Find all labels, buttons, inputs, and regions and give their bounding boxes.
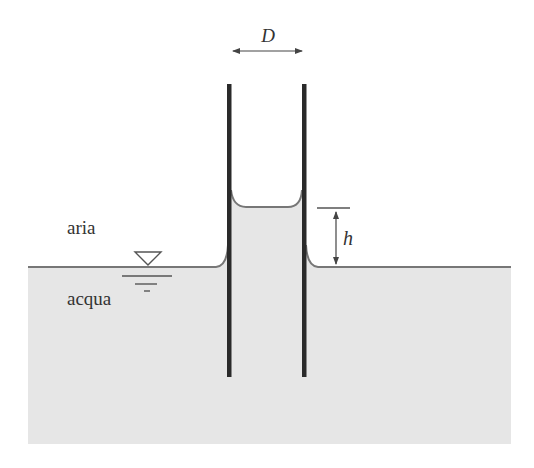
height-label: h xyxy=(343,227,353,249)
inner-meniscus xyxy=(231,190,302,207)
air-label: aria xyxy=(67,217,96,238)
water-region xyxy=(28,192,511,444)
diameter-dimension: D xyxy=(233,25,302,51)
water-label: acqua xyxy=(67,288,112,309)
height-dimension: h xyxy=(317,208,353,264)
tube-wall-left xyxy=(227,84,232,377)
tube-wall-right xyxy=(302,84,307,377)
capillary-diagram: D h aria acqua xyxy=(0,0,534,468)
diameter-label: D xyxy=(260,25,275,46)
